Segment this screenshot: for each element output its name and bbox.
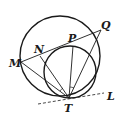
label-N: N — [33, 43, 45, 56]
label-T: T — [64, 102, 73, 115]
angle-mark-PTQ — [70, 87, 74, 88]
large-circle — [20, 16, 100, 96]
label-M: M — [8, 57, 22, 70]
angle-mark-NTM — [60, 88, 63, 91]
label-Q: Q — [101, 19, 111, 32]
geometry-diagram: M N P Q T L — [0, 0, 121, 119]
segment-MQ — [21, 30, 101, 62]
label-P: P — [67, 32, 77, 45]
label-L: L — [106, 90, 115, 103]
